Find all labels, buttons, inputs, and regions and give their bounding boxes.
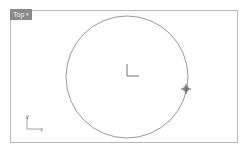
viewport-title-tab[interactable]: Top ▾ [10, 9, 32, 20]
chevron-down-icon: ▾ [26, 9, 29, 20]
viewport-title: Top [13, 9, 24, 20]
circle-object[interactable] [66, 16, 188, 138]
origin-axes-icon [127, 64, 139, 76]
world-axis-x-label: x [40, 126, 43, 132]
drawing-canvas[interactable]: y x [0, 0, 245, 153]
crosshair-cursor-icon [181, 84, 191, 94]
world-axis-y-label: y [26, 113, 29, 119]
